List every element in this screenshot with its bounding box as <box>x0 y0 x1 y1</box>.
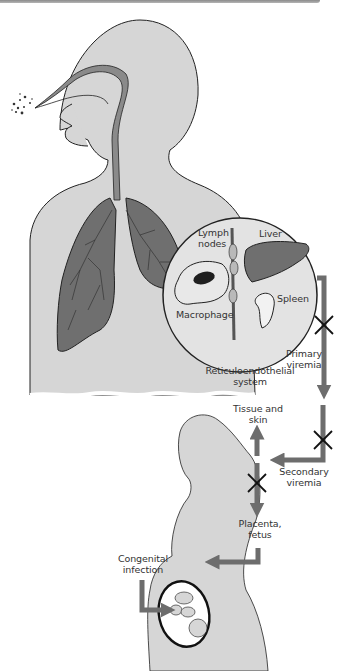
label-macrophage: Macrophage <box>176 309 234 320</box>
label-lymph-nodes: Lymph nodes <box>198 227 229 249</box>
label-secondary-viremia: Secondary viremia <box>276 466 332 488</box>
label-congenital-infection: Congenital infection <box>116 553 170 575</box>
primary-viremia-arrow <box>317 278 324 392</box>
label-liver: Liver <box>259 228 282 239</box>
pregnant-figure <box>148 415 268 671</box>
label-tissue-and-skin: Tissue and skin <box>232 403 284 425</box>
label-placenta-fetus: Placenta, fetus <box>238 518 282 540</box>
label-primary-viremia: Primary viremia <box>284 348 324 370</box>
label-spleen: Spleen <box>277 293 309 304</box>
infection-pathway-diagram <box>0 0 352 671</box>
inhaled-particles-icon <box>11 93 33 114</box>
